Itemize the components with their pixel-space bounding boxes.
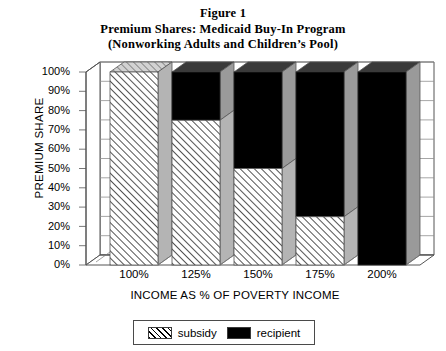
bar-recipient-front-200 (358, 72, 406, 265)
bar-recipient-front-125 (172, 72, 220, 120)
y-tick-20: 20% (34, 221, 70, 232)
legend-label-recipient: recipient (257, 327, 300, 339)
x-axis-title: INCOME AS % OF POVERTY INCOME (70, 289, 400, 301)
bar-subsidy-front-125 (172, 120, 220, 265)
bar-group-100[interactable] (110, 62, 172, 265)
y-tick-30: 30% (34, 201, 70, 212)
y-tick-60: 60% (34, 143, 70, 154)
x-tick-175: 175% (290, 268, 350, 280)
y-tick-90: 90% (34, 85, 70, 96)
plot-left-wall (86, 62, 100, 265)
y-tick-10: 10% (34, 240, 70, 251)
x-tick-150: 150% (228, 268, 288, 280)
bar-recipient-side-175 (344, 62, 358, 217)
bar-group-200[interactable] (358, 62, 420, 265)
y-axis-tick-labels: 100% 90% 80% 70% 60% 50% 40% 30% 20% 10%… (30, 0, 70, 300)
y-tick-70: 70% (34, 124, 70, 135)
legend-entry-subsidy[interactable]: subsidy (148, 327, 217, 339)
bar-subsidy-side-125 (220, 110, 234, 265)
y-tick-50: 50% (34, 163, 70, 174)
bar-subsidy-side-150 (282, 159, 296, 266)
bar-recipient-side-150 (282, 62, 296, 169)
bar-subsidy-front-175 (296, 217, 344, 265)
bar-group-175[interactable] (296, 62, 358, 265)
bar-subsidy-front-100 (110, 72, 158, 265)
legend-swatch-recipient-icon (227, 327, 251, 339)
x-tick-200: 200% (352, 268, 412, 280)
legend-entry-recipient[interactable]: recipient (227, 327, 300, 339)
bar-recipient-side-200 (406, 62, 420, 265)
bar-recipient-front-150 (234, 72, 282, 169)
bar-group-125[interactable] (172, 62, 234, 265)
bar-subsidy-side-100 (158, 62, 172, 265)
legend-label-subsidy: subsidy (178, 327, 217, 339)
y-tick-0: 0% (34, 259, 70, 270)
x-tick-125: 125% (166, 268, 226, 280)
x-tick-100: 100% (104, 268, 164, 280)
y-tick-100: 100% (34, 66, 70, 77)
bar-subsidy-front-150 (234, 169, 282, 266)
y-tick-80: 80% (34, 105, 70, 116)
chart-legend: subsidy recipient (133, 320, 315, 345)
figure-container: Figure 1 Premium Shares: Medicaid Buy-In… (0, 0, 446, 351)
legend-swatch-subsidy-icon (148, 327, 172, 339)
bar-recipient-front-175 (296, 72, 344, 217)
bar-group-150[interactable] (234, 62, 296, 265)
y-tick-40: 40% (34, 182, 70, 193)
